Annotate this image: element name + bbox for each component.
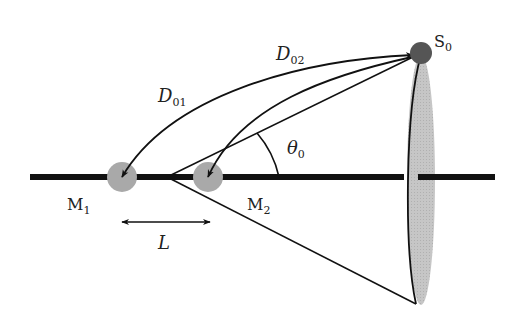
- label-d02: D02: [275, 43, 304, 67]
- distance-d02-arrow: [208, 57, 412, 177]
- label-d01: D01: [157, 85, 186, 109]
- label-spacing-l: L: [157, 232, 170, 253]
- label-s0: S0: [434, 32, 452, 54]
- label-m2: M2: [247, 195, 270, 217]
- cone-lower-line: [167, 177, 416, 304]
- cone-upper-line: [167, 57, 413, 177]
- microphone-array-diagram: S0 M1 M2 D01 D02 θ0 L: [0, 0, 520, 320]
- theta-angle-arc: [257, 133, 279, 177]
- label-m1: M1: [67, 195, 90, 217]
- distance-d01-arrow: [122, 55, 413, 177]
- label-theta0: θ0: [287, 137, 305, 161]
- source-s0: [410, 42, 432, 64]
